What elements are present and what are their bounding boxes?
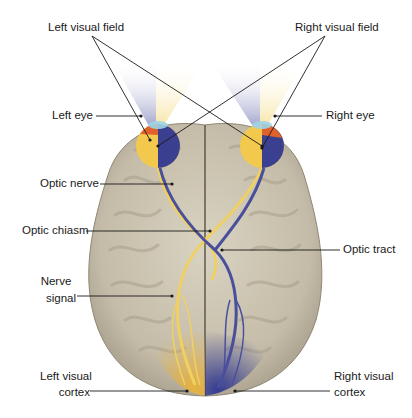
visual-field-cones [112,60,305,128]
label-left-eye: Left eye [52,109,93,122]
label-optic-chiasm: Optic chiasm [22,224,88,237]
label-right-visual-field: Right visual field [295,21,379,34]
label-nerve-signal-line1: Nerve [36,275,76,288]
brain [89,123,322,396]
label-left-visual-cortex-line1: Left visual [40,370,90,383]
label-right-visual-cortex-line1: Right visual [334,370,393,383]
label-nerve-signal: Nerve signal [36,275,76,305]
label-left-visual-cortex: Left visual cortex [40,370,90,399]
label-nerve-signal-line2: signal [36,292,76,305]
label-optic-tract: Optic tract [343,243,395,256]
label-right-visual-cortex-line2: cortex [334,386,393,399]
label-right-eye: Right eye [326,109,375,122]
label-left-visual-cortex-line2: cortex [40,386,90,399]
label-right-visual-cortex: Right visual cortex [334,370,393,399]
label-optic-nerve: Optic nerve [40,177,99,190]
label-left-visual-field: Left visual field [48,21,124,34]
visual-pathway-diagram [0,0,412,418]
